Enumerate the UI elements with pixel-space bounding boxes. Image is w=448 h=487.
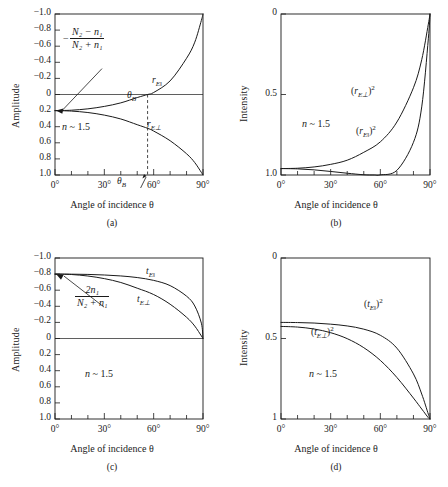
index-value: ~ 1.5 <box>314 368 337 379</box>
panel-d-caption: (d) <box>224 462 448 472</box>
panel-a-xlabel: Angle of incidence θ <box>0 199 224 210</box>
panel-a-ytick: −0.4 <box>34 55 51 65</box>
panel-c-ytick: 0 <box>46 332 51 342</box>
panel-d-ytick: 1 <box>272 412 277 422</box>
label-sup: 2 <box>371 84 375 92</box>
panel-c-ytick: −1.0 <box>34 251 51 261</box>
panel-b: Intensity n ~ 1.5 (rE⊥)2 (rE‖)2 Angle of… <box>224 0 448 243</box>
panel-c-index-note: n ~ 1.5 <box>85 368 113 379</box>
formula-denominator: N₂ + n₁ <box>70 38 104 51</box>
panel-a-ytick: −0.6 <box>34 39 51 49</box>
panel-a-ytick: −0.8 <box>34 23 51 33</box>
panel-d-ylabel: Intensity <box>238 329 249 366</box>
panel-b-xtick: 90° <box>410 180 448 190</box>
panel-c-xtick: 30° <box>84 424 124 434</box>
index-value: ~ 1.5 <box>67 121 90 132</box>
panel-d-label-t-perp-squared: (tE⊥)2 <box>311 325 334 340</box>
label-sup: 2 <box>379 297 383 305</box>
panel-b-label-r-parallel-squared: (rE‖)2 <box>356 124 376 139</box>
index-value: ~ 1.5 <box>307 118 330 129</box>
formula-numerator: 2n₁ <box>75 284 109 296</box>
panel-c-xlabel: Angle of incidence θ <box>0 443 224 454</box>
panel-d-xtick: 30° <box>311 424 351 434</box>
label-sub: E⊥ <box>151 124 161 132</box>
panel-c-formula: 2n₁ N₂ + n₁ <box>75 284 109 308</box>
panel-b-caption: (b) <box>224 218 448 228</box>
panel-a-brewster-inline: θB <box>127 90 136 103</box>
panel-a-ytick: 0.2 <box>39 104 51 114</box>
panel-d-ytick: 0.5 <box>265 332 277 342</box>
panel-b-ytick: 0 <box>272 7 277 17</box>
panel-c-ytick: 0.2 <box>39 348 51 358</box>
index-value: ~ 1.5 <box>90 368 113 379</box>
panel-c-label-t-perp: tE⊥ <box>137 294 150 307</box>
panel-a-ytick: 0.6 <box>39 136 51 146</box>
panel-c: Amplitude 2n₁ N₂ + n₁ n ~ 1.5 tE‖ tE⊥ An… <box>0 244 224 487</box>
panel-c-xtick: 90° <box>183 424 223 434</box>
panel-a-xtick: 90° <box>183 180 223 190</box>
formula-minus-sign: − <box>63 33 69 45</box>
panel-b-xlabel: Angle of incidence θ <box>224 199 448 210</box>
panel-a-ytick: 0.8 <box>39 152 51 162</box>
panel-d: Intensity n ~ 1.5 (tE‖)2 (tE⊥)2 Angle of… <box>224 244 448 487</box>
label-sup: 2 <box>372 124 376 132</box>
label-sub: E‖ <box>149 271 155 279</box>
panel-a-ytick: 0.4 <box>39 120 51 130</box>
panel-c-xtick: 0° <box>35 424 75 434</box>
panel-a-xtick: 0° <box>35 180 75 190</box>
panel-b-xtick: 30° <box>311 180 351 190</box>
label-sup: 2 <box>330 325 334 333</box>
panel-c-ytick: 0.8 <box>39 396 51 406</box>
panel-c-ylabel: Amplitude <box>10 327 21 372</box>
panel-c-ytick: −0.8 <box>34 267 51 277</box>
panel-a-label-r-perp: rE⊥ <box>147 119 161 132</box>
panel-b-ytick: 0.5 <box>265 88 277 98</box>
panel-a-xtick: 60° <box>134 180 174 190</box>
panel-b-index-note: n ~ 1.5 <box>302 118 330 129</box>
figure-grid: Amplitude − N₂ − n₁ N₂ + n₁ n ~ 1.5 rE‖ … <box>0 0 448 487</box>
panel-c-ytick: 1.0 <box>39 412 51 422</box>
label-sub: E⊥ <box>317 332 327 340</box>
panel-b-ytick: 1.0 <box>265 168 277 178</box>
panel-c-ytick: 0.4 <box>39 364 51 374</box>
panel-a-label-r-parallel: rE‖ <box>152 75 162 88</box>
label-sub: E⊥ <box>140 299 150 307</box>
panel-a-ytick: −0.2 <box>34 71 51 81</box>
panel-c-ytick: −0.6 <box>34 283 51 293</box>
panel-d-xtick: 60° <box>360 424 400 434</box>
panel-a: Amplitude − N₂ − n₁ N₂ + n₁ n ~ 1.5 rE‖ … <box>0 0 224 243</box>
panel-a-formula: − N₂ − n₁ N₂ + n₁ <box>70 26 104 50</box>
panel-c-ytick: −0.4 <box>34 299 51 309</box>
panel-a-xtick: 30° <box>84 180 124 190</box>
label-sub: E‖ <box>156 80 162 88</box>
panel-c-caption: (c) <box>0 462 224 472</box>
panel-b-ylabel: Intensity <box>238 85 249 122</box>
panel-b-xtick: 0° <box>261 180 301 190</box>
panel-c-xtick: 60° <box>134 424 174 434</box>
panel-d-xlabel: Angle of incidence θ <box>224 443 448 454</box>
panel-a-ytick: 0 <box>46 88 51 98</box>
panel-a-ylabel: Amplitude <box>10 83 21 128</box>
panel-a-ytick: −1.0 <box>34 7 51 17</box>
panel-a-caption: (a) <box>0 218 224 228</box>
brewster-sub: B <box>132 95 136 103</box>
formula-denominator: N₂ + n₁ <box>75 296 109 309</box>
panel-c-ytick: 0.6 <box>39 380 51 390</box>
panel-b-xtick: 60° <box>360 180 400 190</box>
panel-d-index-note: n ~ 1.5 <box>309 368 337 379</box>
panel-a-index-note: n ~ 1.5 <box>62 121 90 132</box>
panel-b-label-r-perp-squared: (rE⊥)2 <box>351 84 375 99</box>
panel-d-label-t-parallel-squared: (tE‖)2 <box>364 297 383 312</box>
panel-c-label-t-parallel: tE‖ <box>146 266 155 279</box>
panel-a-ytick: 1.0 <box>39 168 51 178</box>
formula-numerator: N₂ − n₁ <box>70 26 104 38</box>
panel-c-ytick: −0.2 <box>34 315 51 325</box>
panel-d-ytick: 0 <box>272 251 277 261</box>
label-sub: E⊥ <box>358 91 368 99</box>
panel-d-xtick: 0° <box>261 424 301 434</box>
panel-d-xtick: 90° <box>410 424 448 434</box>
